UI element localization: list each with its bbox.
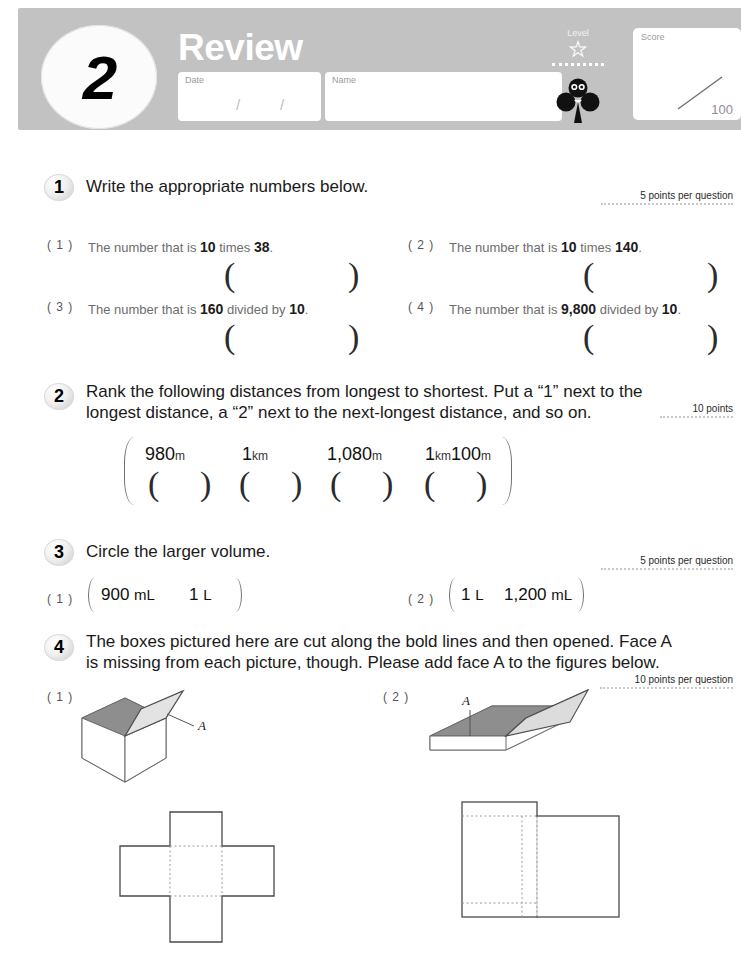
problem-2-answer-1-open: (	[148, 467, 159, 501]
score-max-value: 100	[711, 102, 733, 117]
date-field-label: Date	[185, 75, 204, 85]
star-icon: ★	[548, 39, 608, 59]
volume-option-2b[interactable]: 1,200 mL	[504, 585, 572, 605]
problem-2-answer-2-open: (	[239, 467, 250, 501]
problem-1-number: 1	[44, 174, 74, 201]
problem-1-item-1-text: The number that is 10 times 38.	[88, 239, 273, 255]
score-field[interactable]: Score 100	[633, 28, 741, 120]
name-field-label: Name	[332, 75, 356, 85]
volume-option-1b[interactable]: 1 L	[189, 585, 212, 605]
problem-1-answer-2-open: (	[583, 258, 594, 292]
problem-1-answer-1-open: (	[224, 258, 235, 292]
volume-option-1a[interactable]: 900 mL	[101, 585, 155, 605]
problem-4-title-line1: The boxes pictured here are cut along th…	[86, 631, 672, 653]
problem-1-points-label: 5 points per question	[640, 190, 733, 201]
problem-1-points: 5 points per question	[601, 190, 733, 205]
problem-2-title-line2: longest distance, a “2” next to the next…	[86, 402, 592, 424]
problem-2-points: 10 points	[660, 403, 733, 418]
figure-2-tray-box: A	[420, 688, 620, 798]
problem-3-badge: 3	[44, 539, 74, 566]
problem-1-answer-4-open: (	[583, 320, 594, 354]
distance-value-1: 980m	[145, 444, 185, 465]
problem-1-item-1-label: ( 1 )	[47, 238, 73, 252]
date-field[interactable]: Date / /	[178, 72, 321, 121]
problem-2-number: 2	[44, 383, 74, 410]
distance-value-3: 1,080m	[327, 444, 382, 465]
problem-3-points: 5 points per question	[601, 555, 733, 570]
problem-4-points-label: 10 points per question	[635, 674, 733, 685]
problem-2-answer-2-close[interactable]: )	[291, 467, 302, 501]
worksheet-number: 2	[41, 25, 157, 129]
figure-2-two-rectangle-net	[460, 798, 635, 923]
problem-2-answer-3-open: (	[330, 467, 341, 501]
problem-3-title: Circle the larger volume.	[86, 541, 270, 563]
problem-1-answer-1-close[interactable]: )	[348, 258, 359, 292]
problem-1-answer-2-close[interactable]: )	[707, 258, 718, 292]
problem-1-answer-3-open: (	[224, 320, 235, 354]
problem-4-points: 10 points per question	[600, 674, 733, 689]
problem-3-points-label: 5 points per question	[640, 555, 733, 566]
problem-4-number: 4	[44, 634, 74, 661]
name-field[interactable]: Name	[325, 72, 562, 121]
problem-4-figure-2-label: ( 2 )	[383, 690, 409, 704]
level-dotted-line	[552, 60, 604, 66]
problem-2-points-label: 10 points	[692, 403, 733, 414]
problem-1-item-2-label: ( 2 )	[408, 238, 434, 252]
volume-option-2a[interactable]: 1 L	[461, 585, 484, 605]
problem-1-item-3-text: The number that is 160 divided by 10.	[88, 301, 308, 317]
face-label-a-figure-1: A	[197, 718, 206, 733]
problem-1-answer-3-close[interactable]: )	[348, 320, 359, 354]
figure-1-cross-net	[118, 810, 278, 950]
problem-1-answer-4-close[interactable]: )	[707, 320, 718, 354]
figure-1-open-box: A	[70, 690, 250, 800]
date-slash-2: /	[280, 96, 284, 113]
problem-2-answer-4-close[interactable]: )	[476, 467, 487, 501]
problem-1-item-4-label: ( 4 )	[408, 300, 434, 314]
distance-value-4: 1km100m	[425, 444, 491, 465]
problem-1-badge: 1	[44, 174, 74, 201]
page-title: Review	[178, 27, 303, 69]
problem-1-item-4-text: The number that is 9,800 divided by 10.	[449, 301, 681, 317]
problem-2-answer-4-open: (	[424, 467, 435, 501]
problem-3-item-1-label: ( 1 )	[47, 592, 73, 606]
level-area: Level ★	[548, 28, 608, 66]
date-slash-1: /	[236, 96, 240, 113]
worksheet-number-badge: 2	[41, 25, 157, 129]
problem-2-answer-1-close[interactable]: )	[200, 467, 211, 501]
level-label: Level	[548, 28, 608, 38]
problem-2-title-line1: Rank the following distances from longes…	[86, 381, 643, 403]
problem-4-badge: 4	[44, 634, 74, 661]
problem-1-title: Write the appropriate numbers below.	[86, 176, 368, 198]
problem-1-item-2-text: The number that is 10 times 140.	[449, 239, 642, 255]
score-field-label: Score	[641, 32, 665, 42]
clover-mascot-icon	[555, 76, 601, 124]
problem-3-number: 3	[44, 539, 74, 566]
problem-2-badge: 2	[44, 383, 74, 410]
face-label-a-figure-2: A	[461, 693, 470, 708]
problem-3-item-2-label: ( 2 )	[408, 592, 434, 606]
problem-2-answer-3-close[interactable]: )	[382, 467, 393, 501]
problem-4-title-line2: is missing from each picture, though. Pl…	[86, 652, 660, 674]
worksheet-header: 2 Review Date / / Name Level ★ Score	[18, 8, 741, 130]
problem-1-item-3-label: ( 3 )	[47, 300, 73, 314]
distance-value-2: 1km	[242, 444, 268, 465]
